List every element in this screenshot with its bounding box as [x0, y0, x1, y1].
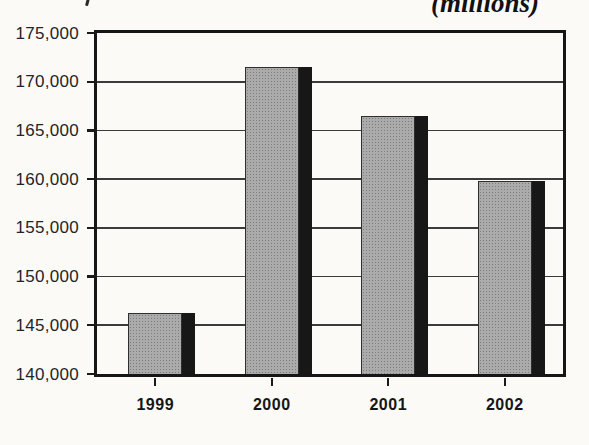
bar-shadow-2001	[414, 116, 428, 374]
bar-shadow-2002	[531, 181, 545, 374]
y-axis-label: 165,000	[0, 121, 79, 140]
x-axis-tick	[154, 378, 156, 386]
x-axis-tick	[387, 378, 389, 386]
x-axis-label-2001: 2001	[348, 396, 428, 413]
y-axis-label: 160,000	[0, 170, 79, 189]
y-axis-tick	[87, 227, 97, 229]
y-axis-tick	[87, 129, 97, 131]
units-annotation: (millions)	[431, 0, 581, 19]
bar-2002	[478, 181, 532, 374]
bar-chart: (millions) 175,000170,000165,000160,0001…	[0, 0, 589, 445]
y-axis-label: 170,000	[0, 72, 79, 91]
x-axis-label-2002: 2002	[465, 396, 545, 413]
bar-2000	[245, 67, 299, 374]
bar-1999	[128, 313, 182, 374]
y-axis-label: 150,000	[0, 267, 79, 286]
gridline	[97, 130, 563, 132]
y-axis-label: 140,000	[0, 365, 79, 384]
gridline	[97, 81, 563, 83]
y-axis-label: 175,000	[0, 24, 79, 43]
units-annotation-text: (millions)	[431, 0, 581, 17]
y-axis-tick	[87, 324, 97, 326]
x-axis-label-2000: 2000	[232, 396, 312, 413]
x-axis-tick	[504, 378, 506, 386]
gridline	[97, 178, 563, 180]
y-axis-label: 145,000	[0, 316, 79, 335]
y-axis-tick	[87, 275, 97, 277]
bar-shadow-1999	[181, 313, 195, 374]
x-axis-tick	[271, 378, 273, 386]
bar-2001	[361, 116, 415, 374]
x-axis-label-1999: 1999	[115, 396, 195, 413]
bar-shadow-2000	[298, 67, 312, 374]
y-axis-tick	[87, 178, 97, 180]
y-axis-tick	[87, 81, 97, 83]
y-axis-tick	[87, 373, 97, 375]
y-axis-tick	[87, 32, 97, 34]
y-axis-label: 155,000	[0, 218, 79, 237]
scan-artifact	[85, 0, 90, 6]
